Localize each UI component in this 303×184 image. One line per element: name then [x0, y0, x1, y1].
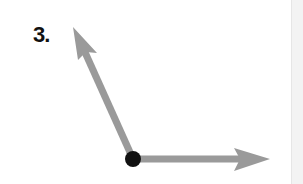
vertex-point	[125, 151, 141, 167]
ray-right	[133, 148, 270, 171]
ray-up	[73, 27, 133, 159]
angle-diagram	[0, 0, 303, 184]
